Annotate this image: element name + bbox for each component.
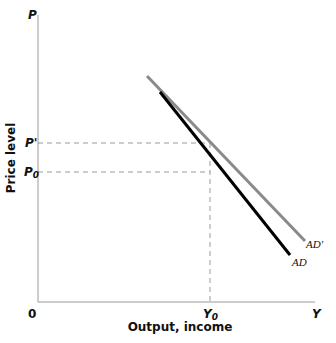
ad-label: AD: [291, 256, 307, 268]
ad-shift-diagram: P Y 0 P' P0 Y0 Output, income Price leve…: [0, 0, 336, 343]
x-axis-title: Output, income: [128, 320, 233, 334]
origin-label: 0: [28, 307, 36, 321]
y-axis-title: Price level: [4, 123, 18, 194]
y-axis-end-label: P: [28, 8, 37, 22]
p0-label: P0: [24, 165, 39, 180]
ad-prime-label: AD': [305, 238, 324, 250]
p-prime-label: P': [25, 136, 37, 150]
ad-prime-curve: [147, 76, 305, 241]
x-axis-end-label: Y: [312, 307, 322, 321]
ad-curve: [160, 92, 290, 255]
